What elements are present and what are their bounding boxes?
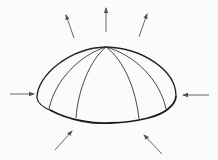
dome-force-diagram xyxy=(0,0,218,160)
meridian-3 xyxy=(106,47,139,119)
arrow-bottom-right xyxy=(144,135,162,154)
dome-outline xyxy=(37,47,176,98)
diagram-svg xyxy=(0,0,218,160)
arrow-bottom-left xyxy=(55,131,72,150)
dome xyxy=(37,47,176,123)
dome-base-rim xyxy=(50,96,176,123)
arrow-top-right xyxy=(139,14,147,37)
force-arrows xyxy=(10,8,209,154)
arrow-top-left xyxy=(66,15,74,38)
meridian-2 xyxy=(76,47,106,118)
